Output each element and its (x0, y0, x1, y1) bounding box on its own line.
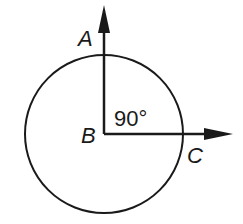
angle-diagram: A B C 90° (0, 0, 243, 224)
arrowhead-up-icon (98, 5, 110, 33)
diagram-canvas: A B C 90° (0, 0, 243, 224)
label-point-c: C (187, 143, 203, 168)
label-angle-measure: 90° (114, 106, 147, 131)
label-point-b: B (81, 123, 96, 148)
arrowhead-right-icon (204, 128, 233, 140)
label-point-a: A (76, 26, 93, 51)
